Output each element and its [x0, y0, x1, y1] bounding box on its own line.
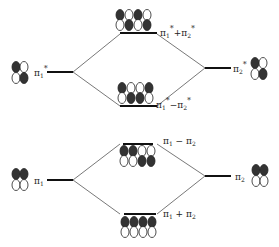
- label-plus: π1 + π2: [163, 209, 196, 220]
- label-minus: π1 − π2: [163, 136, 196, 147]
- label-minus-star: π1*−π2*: [156, 96, 191, 111]
- energy-levels: [47, 33, 231, 214]
- label-pi2: π2: [235, 172, 245, 183]
- orbital-minus-star: [118, 83, 153, 104]
- orbital-pi1: [12, 169, 28, 191]
- mo-diagram: π1* π2* π1*+π2* π1*−π2* π1 π2 π1 − π2 π1…: [0, 0, 279, 247]
- orbital-plus-star: [116, 10, 151, 31]
- orbital-pi2: [252, 165, 268, 187]
- orbital-pi1-star: [12, 62, 28, 84]
- label-pi1: π1: [34, 176, 44, 187]
- orbital-minus: [120, 146, 155, 167]
- label-pi2-star: π2*: [233, 60, 247, 75]
- orbital-pi2-star: [251, 58, 267, 80]
- label-pi1-star: π1*: [34, 64, 48, 79]
- correlation-lines: [73, 34, 205, 214]
- label-plus-star: π1*+π2*: [160, 24, 195, 39]
- orbital-plus: [121, 217, 156, 238]
